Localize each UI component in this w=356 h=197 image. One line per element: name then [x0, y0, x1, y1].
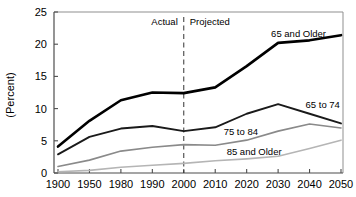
x-tick-label: 1990: [140, 178, 164, 190]
actual-label: Actual: [151, 16, 177, 27]
x-axis-tick-labels: 1900195019801990200020102020203020402050: [46, 178, 353, 190]
x-tick-label: 1980: [109, 178, 133, 190]
y-tick-label: 10: [35, 103, 47, 115]
chart-container: 0510152025 19001950198019902000201020202…: [0, 0, 356, 197]
y-tick-label: 20: [35, 38, 47, 50]
line-chart: 0510152025 19001950198019902000201020202…: [0, 0, 356, 197]
x-tick-label: 1900: [46, 178, 70, 190]
x-tick-label: 2000: [172, 178, 196, 190]
label-85-and-older: 85 and Older: [227, 146, 282, 157]
label-65-to-74: 65 to 74: [306, 99, 340, 110]
y-axis-title: (Percent): [4, 72, 16, 117]
y-tick-label: 15: [35, 70, 47, 82]
label-65-and-older: 65 and Older: [271, 28, 326, 39]
x-tick-label: 1950: [77, 178, 101, 190]
y-tick-label: 5: [41, 135, 47, 147]
y-axis-tick-labels: 0510152025: [35, 6, 47, 179]
x-tick-label: 2010: [203, 178, 227, 190]
x-tick-label: 2020: [234, 178, 258, 190]
label-75-to-84: 75 to 84: [224, 126, 258, 137]
y-tick-label: 25: [35, 6, 47, 18]
x-tick-label: 2040: [297, 178, 321, 190]
x-tick-label: 2030: [266, 178, 290, 190]
x-tick-label: 2050: [329, 178, 353, 190]
projected-label: Projected: [190, 16, 230, 27]
